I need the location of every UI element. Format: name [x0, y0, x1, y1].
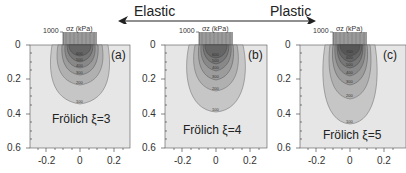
svg-text:600: 600	[76, 51, 83, 56]
panel-tag: (c)	[383, 48, 397, 62]
y-tick: 0	[150, 39, 156, 50]
svg-text:500: 500	[346, 62, 353, 67]
y-tick: 0.2	[277, 73, 291, 84]
y-tick: 0.2	[142, 73, 156, 84]
y-tick: 0.4	[277, 108, 291, 119]
load-value-label: 1000	[313, 27, 329, 34]
load-value-label: 1000	[43, 27, 59, 34]
svg-text:300: 300	[76, 70, 83, 75]
x-tick: -0.2	[174, 155, 191, 166]
panel-c: 700 600 500 400 300 200 100 1000 σz (kPa…	[270, 0, 406, 173]
x-tick: 0	[347, 155, 353, 166]
panel-caption: Frölich ξ=3	[52, 112, 110, 126]
y-tick: 0.2	[7, 73, 21, 84]
svg-text:200: 200	[76, 80, 83, 85]
y-tick: 0.6	[7, 142, 21, 153]
y-tick: 0	[15, 39, 21, 50]
svg-text:500: 500	[212, 58, 219, 63]
panel-tag: (b)	[248, 48, 263, 62]
y-tick: 0.6	[277, 142, 291, 153]
svg-text:300: 300	[212, 74, 219, 79]
x-tick: 0.2	[377, 155, 391, 166]
x-tick: 0	[213, 155, 219, 166]
svg-text:600: 600	[346, 55, 353, 60]
y-tick: 0.4	[7, 108, 21, 119]
svg-text:100: 100	[346, 119, 353, 124]
x-tick: -0.2	[38, 155, 55, 166]
load-unit-label: σz (kPa)	[66, 25, 93, 32]
svg-text:100: 100	[212, 107, 219, 112]
x-tick: 0.2	[243, 155, 257, 166]
svg-text:400: 400	[76, 63, 83, 68]
panel-a: 600 500 400 300 200 100 1000 σz (kPa) 0 …	[0, 0, 136, 173]
panel-caption: Frölich ξ=5	[323, 128, 381, 142]
load-unit-label: σz (kPa)	[202, 25, 229, 32]
load-value-label: 1000	[179, 27, 195, 34]
svg-text:100: 100	[76, 99, 83, 104]
svg-text:300: 300	[346, 79, 353, 84]
panel-tag: (a)	[111, 48, 126, 62]
panel-caption: Frölich ξ=4	[183, 123, 241, 137]
x-tick: 0.2	[107, 155, 121, 166]
svg-text:200: 200	[346, 93, 353, 98]
y-tick: 0.6	[142, 142, 156, 153]
svg-text:200: 200	[212, 86, 219, 91]
panel-b: 600 500 400 300 200 100 1000 σz (kPa) 0 …	[135, 0, 271, 173]
svg-text:400: 400	[212, 65, 219, 70]
y-tick: 0	[285, 39, 291, 50]
svg-text:400: 400	[346, 70, 353, 75]
svg-text:500: 500	[76, 57, 83, 62]
x-tick: 0	[77, 155, 83, 166]
y-tick: 0.4	[142, 108, 156, 119]
svg-text:600: 600	[212, 52, 219, 57]
x-tick: -0.2	[308, 155, 325, 166]
svg-text:700: 700	[346, 49, 353, 54]
load-unit-label: σz (kPa)	[336, 25, 363, 32]
